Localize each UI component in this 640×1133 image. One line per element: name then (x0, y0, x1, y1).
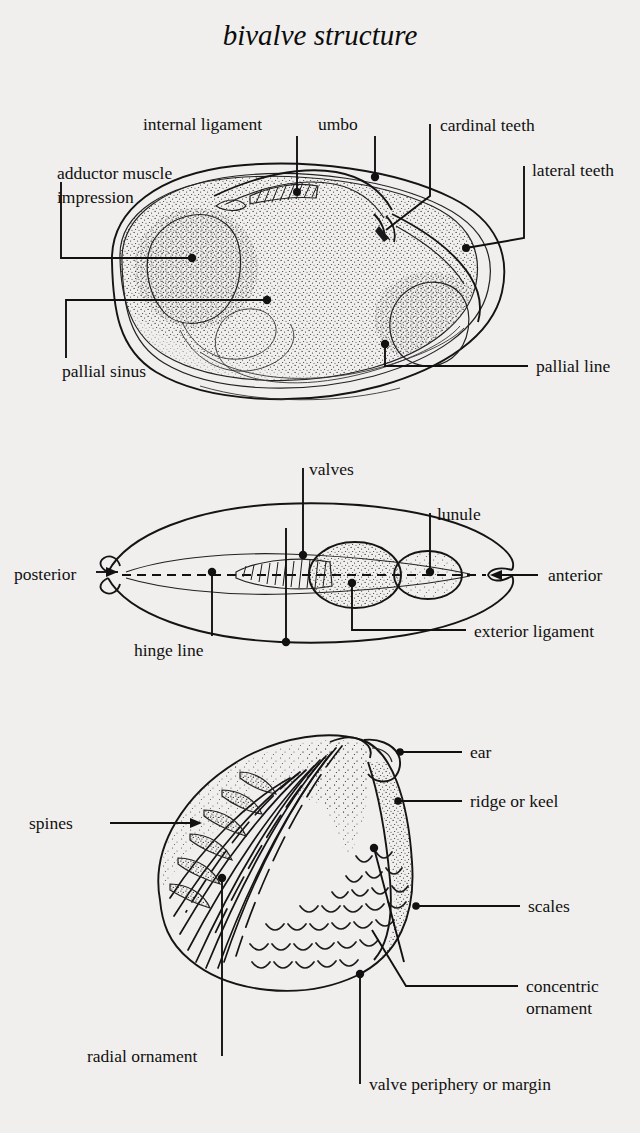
label-ridge-or-keel: ridge or keel (470, 791, 559, 811)
leader-dot-ridge-or-keel (394, 797, 402, 805)
label-exterior-ligament: exterior ligament (474, 621, 594, 641)
label-cardinal-teeth: cardinal teeth (440, 115, 535, 135)
label-umbo: umbo (318, 114, 358, 134)
label-adductor-muscle-line1: adductor muscle (57, 163, 172, 183)
label-pallial-line: pallial line (536, 356, 611, 376)
label-hinge-line: hinge line (134, 640, 204, 660)
page-title: bivalve structure (223, 19, 418, 51)
leader-dot-lateral-teeth (462, 244, 470, 252)
bivalve-structure-figure: bivalve structure (0, 0, 640, 1133)
leader-dot-valves-lower (282, 638, 290, 646)
leader-dot-hinge-line (208, 568, 216, 576)
leader-dot-scales (412, 902, 420, 910)
label-pallial-sinus: pallial sinus (62, 361, 146, 381)
leader-dot-valve-periphery (356, 970, 364, 978)
leader-dot-ear (396, 748, 404, 756)
label-spines: spines (29, 813, 73, 833)
label-lunule: lunule (437, 504, 481, 524)
leader-dot-exterior-ligament (348, 579, 356, 587)
leader-dot-lunule (426, 568, 434, 576)
label-anterior: anterior (548, 565, 603, 585)
leader-dot-pallial-sinus (263, 296, 271, 304)
leader-dot-radial-ornament (218, 874, 226, 882)
label-lateral-teeth: lateral teeth (532, 160, 614, 180)
label-adductor-muscle-line2: impression (57, 187, 134, 207)
figure-canvas: bivalve structure (0, 0, 640, 1133)
leader-dot-internal-ligament (293, 188, 301, 196)
label-scales: scales (528, 896, 570, 916)
label-valves: valves (309, 459, 354, 479)
figure-interior-valve: internal ligament umbo cardinal teeth la… (57, 114, 614, 410)
figure-exterior-valve: ear ridge or keel spines scales concentr… (29, 735, 599, 1094)
label-valve-periphery: valve periphery or margin (369, 1074, 551, 1094)
leader-dot-adductor-muscle (188, 254, 196, 262)
label-concentric-ornament-line1: concentric (526, 976, 599, 996)
leader-dot-umbo (371, 173, 379, 181)
label-radial-ornament: radial ornament (87, 1046, 197, 1066)
label-concentric-ornament-line2: ornament (526, 998, 592, 1018)
arrowhead-posterior (106, 567, 118, 577)
leader-dot-valves-upper (299, 551, 307, 559)
leader-dot-interior-field (370, 844, 378, 852)
label-internal-ligament: internal ligament (143, 114, 262, 134)
label-posterior: posterior (14, 564, 76, 584)
leader-dot-pallial-line (381, 340, 389, 348)
exterior-ligament-oval (309, 542, 401, 608)
label-ear: ear (470, 742, 492, 762)
figure-dorsal-view: valves lunule posterior anterior hinge l… (14, 459, 603, 660)
